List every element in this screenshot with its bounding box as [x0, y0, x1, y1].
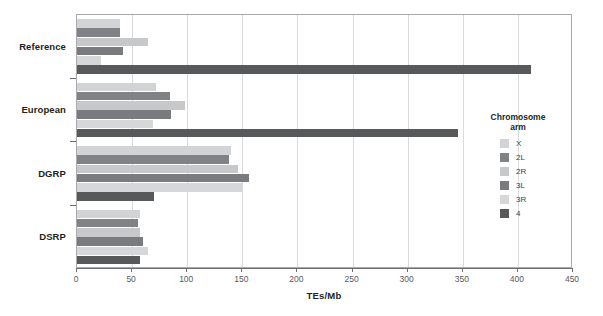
- y-axis-label-dsrp: DSRP: [39, 231, 66, 242]
- bar-reference-2r: [77, 38, 148, 47]
- bar-dgrp-3r: [77, 183, 243, 192]
- x-tick-200: [296, 268, 297, 272]
- x-tick-250: [352, 268, 353, 272]
- bar-european-x: [77, 83, 156, 92]
- x-tick-label-0: 0: [74, 274, 79, 284]
- legend-title-line1: Chromosome: [481, 112, 555, 122]
- bar-chart: ReferenceEuropeanDGRPDSRP 05010015020025…: [0, 0, 603, 316]
- y-tick-2: [70, 141, 76, 142]
- y-axis-label-reference: Reference: [19, 40, 66, 51]
- legend-label-3l: 3L: [516, 181, 525, 190]
- x-tick-label-50: 50: [126, 274, 135, 284]
- legend-item-2r: 2R: [500, 164, 573, 178]
- legend-swatch-2r: [500, 167, 509, 176]
- legend-swatch-x: [500, 139, 509, 148]
- x-tick-150: [241, 268, 242, 272]
- bar-reference-3l: [77, 47, 123, 56]
- bar-reference-4: [77, 65, 531, 74]
- bar-european-2l: [77, 92, 170, 101]
- bar-dgrp-2r: [77, 165, 238, 174]
- legend-title-line2: arm: [481, 122, 555, 132]
- y-axis-label-dgrp: DGRP: [38, 167, 66, 178]
- x-tick-350: [462, 268, 463, 272]
- bar-dgrp-x: [77, 146, 231, 155]
- legend-items: X2L2R3L3R4: [481, 136, 573, 220]
- y-tick-3: [70, 205, 76, 206]
- x-tick-0: [76, 268, 77, 272]
- bar-reference-3r: [77, 56, 101, 65]
- legend-label-3r: 3R: [516, 195, 526, 204]
- legend-swatch-3r: [500, 195, 509, 204]
- x-tick-50: [131, 268, 132, 272]
- legend-label-4: 4: [516, 209, 520, 218]
- y-axis-label-european: European: [21, 104, 66, 115]
- bar-reference-2l: [77, 28, 120, 37]
- bar-dgrp-2l: [77, 155, 229, 164]
- x-axis-title: TEs/Mb: [76, 290, 572, 301]
- x-tick-100: [186, 268, 187, 272]
- legend-swatch-3l: [500, 181, 509, 190]
- bar-dsrp-x: [77, 210, 140, 219]
- x-tick-label-300: 300: [400, 274, 414, 284]
- bar-european-2r: [77, 101, 185, 110]
- x-tick-label-200: 200: [289, 274, 303, 284]
- x-tick-450: [572, 268, 573, 272]
- y-axis-group-labels: ReferenceEuropeanDGRPDSRP: [0, 14, 72, 268]
- x-tick-300: [407, 268, 408, 272]
- legend-swatch-2l: [500, 153, 509, 162]
- y-tick-1: [70, 78, 76, 79]
- x-tick-label-250: 250: [344, 274, 358, 284]
- legend-label-x: X: [516, 139, 521, 148]
- x-tick-label-400: 400: [510, 274, 524, 284]
- bar-european-4: [77, 129, 458, 138]
- legend-item-3r: 3R: [500, 192, 573, 206]
- legend-item-4: 4: [500, 206, 573, 220]
- bar-dsrp-2r: [77, 228, 140, 237]
- x-tick-label-350: 350: [455, 274, 469, 284]
- bar-reference-x: [77, 19, 120, 28]
- legend-swatch-4: [500, 209, 509, 218]
- bar-european-3r: [77, 120, 153, 129]
- x-tick-label-100: 100: [179, 274, 193, 284]
- legend-item-x: X: [500, 136, 573, 150]
- bar-dsrp-3r: [77, 247, 148, 256]
- x-axis-line: [76, 268, 572, 269]
- bar-dsrp-3l: [77, 237, 143, 246]
- legend-item-2l: 2L: [500, 150, 573, 164]
- x-tick-label-450: 450: [565, 274, 579, 284]
- legend-item-3l: 3L: [500, 178, 573, 192]
- bar-dgrp-4: [77, 192, 154, 201]
- bar-dgrp-3l: [77, 174, 249, 183]
- legend-label-2l: 2L: [516, 153, 525, 162]
- x-tick-400: [517, 268, 518, 272]
- legend-label-2r: 2R: [516, 167, 526, 176]
- legend-title: Chromosome arm: [481, 112, 555, 132]
- bar-european-3l: [77, 110, 171, 119]
- legend: Chromosome arm X2L2R3L3R4: [481, 112, 573, 220]
- bar-dsrp-2l: [77, 219, 138, 228]
- x-tick-label-150: 150: [234, 274, 248, 284]
- bar-dsrp-4: [77, 256, 140, 265]
